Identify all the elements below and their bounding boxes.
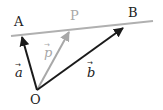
vector-label-b: b	[87, 65, 95, 80]
vector-diagram: A P B O a → p → b →	[0, 0, 163, 110]
line-ab	[11, 21, 153, 36]
vector-arrow-glyph-b: →	[87, 59, 93, 67]
vector-arrow-glyph-a: →	[15, 61, 21, 69]
point-label-b: B	[128, 5, 138, 20]
point-label-a: A	[13, 14, 24, 29]
vector-arrow-glyph-p: →	[44, 41, 50, 49]
point-label-p: P	[70, 8, 79, 23]
point-label-o: O	[30, 92, 41, 107]
vector-a-arrow	[22, 37, 37, 90]
vector-p-arrow	[37, 32, 69, 90]
